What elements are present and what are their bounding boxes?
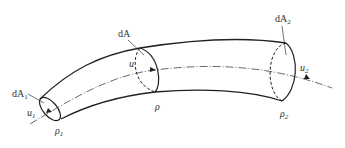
outlet-section-back — [270, 43, 286, 101]
outlet-section-front — [282, 43, 295, 101]
label-rho2: ρ2 — [279, 108, 289, 121]
label-dA1: dA1 — [12, 88, 28, 101]
stream-tube-diagram: dA1 dA dA2 u1 u u2 ρ1 ρ ρ2 — [0, 0, 345, 148]
label-u2: u2 — [300, 62, 309, 75]
arrow-u-icon — [150, 67, 156, 72]
leader-dA2 — [282, 26, 286, 55]
label-rho: ρ — [154, 101, 160, 112]
label-rho1: ρ1 — [54, 125, 63, 138]
tube-bottom-edge — [61, 90, 282, 119]
label-u1: u1 — [27, 107, 36, 120]
label-dA2: dA2 — [275, 13, 291, 26]
label-dA: dA — [118, 28, 131, 39]
label-u: u — [129, 58, 134, 69]
arrow-u1-icon — [46, 108, 52, 113]
